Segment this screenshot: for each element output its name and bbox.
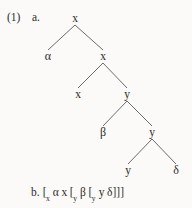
tree-edge: [128, 139, 152, 164]
tree-node-x: x: [75, 89, 81, 101]
tree-edge: [75, 25, 103, 50]
tree-node-y: y: [124, 89, 130, 101]
token-symbol: β: [80, 186, 86, 198]
syntax-tree-edges: [0, 0, 192, 208]
tree-edge: [48, 25, 75, 50]
tree-node-β: β: [100, 127, 106, 139]
bracket-notation-tokens: [xαx[yβ[yyδ]]]: [43, 186, 124, 198]
example-figure: (1) a. xαxxyβyyδ b.[xαx[yβ[yyδ]]]: [0, 0, 192, 208]
tree-node-α: α: [45, 51, 51, 63]
token-subscript: y: [92, 194, 96, 203]
tree-node-x: x: [72, 13, 78, 25]
tree-node-x: x: [100, 51, 106, 63]
token-symbol: α: [53, 186, 59, 198]
tree-edge: [152, 139, 176, 164]
token-symbol: y: [99, 186, 105, 198]
tree-node-y: y: [149, 127, 155, 139]
tree-edge: [103, 63, 127, 88]
token-bracket: ]: [120, 186, 124, 198]
tree-node-y: y: [125, 165, 131, 177]
tree-edge: [78, 63, 103, 88]
tree-edge: [103, 101, 127, 126]
tree-node-δ: δ: [173, 165, 179, 177]
token-subscript: y: [73, 194, 77, 203]
token-subscript: x: [46, 194, 50, 203]
token-symbol: x: [61, 186, 67, 198]
part-b-label: b.: [31, 186, 40, 198]
tree-edge: [127, 101, 152, 126]
bracket-notation-line: b.[xαx[yβ[yyδ]]]: [31, 186, 124, 203]
